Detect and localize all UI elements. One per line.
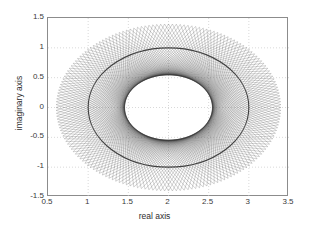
x-tick-label: 0.5 — [27, 198, 67, 206]
gridlines — [48, 18, 289, 197]
y-tick-label: 0 — [4, 103, 44, 111]
x-axis-label: real axis — [0, 211, 309, 221]
figure-canvas: 1.510.50-0.5-1-1.5 0.511.522.533.5 real … — [0, 0, 309, 236]
x-tick-label: 2 — [148, 198, 188, 206]
x-tick-label: 1.5 — [107, 198, 147, 206]
y-tick-label: 1.5 — [4, 13, 44, 21]
y-tick-label: -1 — [4, 162, 44, 170]
x-tick-label: 1 — [67, 198, 107, 206]
plot-svg — [48, 18, 289, 197]
y-tick-label: 0.5 — [4, 73, 44, 81]
x-tick-label: 3.5 — [268, 198, 308, 206]
x-tick-label: 3 — [228, 198, 268, 206]
y-tick-label: 1 — [4, 43, 44, 51]
y-tick-label: -0.5 — [4, 132, 44, 140]
x-tick-label: 2.5 — [188, 198, 228, 206]
y-axis-label: imaginary axis — [14, 43, 24, 163]
plot-area — [47, 17, 288, 196]
